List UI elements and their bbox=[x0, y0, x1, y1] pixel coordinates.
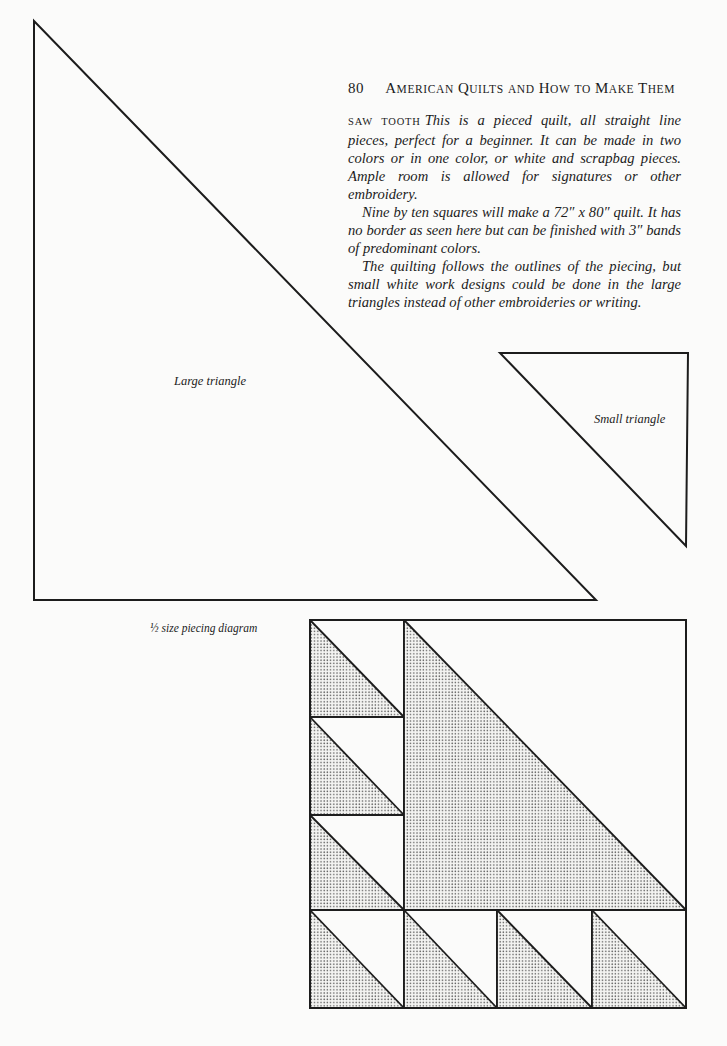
book-title: AMERICAN QUILTS AND HOW TO MAKE THEM bbox=[385, 80, 675, 96]
page-number: 80 bbox=[348, 80, 382, 97]
sawtooth-block bbox=[497, 910, 592, 1008]
sawtooth-block bbox=[310, 717, 404, 815]
large-triangle-block bbox=[404, 620, 686, 910]
sawtooth-block bbox=[310, 620, 404, 717]
large-triangle-label: Large triangle bbox=[174, 374, 246, 389]
small-triangle-template bbox=[500, 353, 688, 546]
pattern-description: saw toothThis is a pieced quilt, all str… bbox=[348, 111, 681, 311]
sawtooth-block bbox=[310, 910, 404, 1008]
piecing-diagram bbox=[310, 620, 686, 1008]
sawtooth-block bbox=[592, 910, 686, 1008]
piecing-diagram-label: ½ size piecing diagram bbox=[150, 622, 257, 634]
small-triangle-label: Small triangle bbox=[594, 412, 665, 427]
paragraph-size: Nine by ten squares will make a 72″ x 80… bbox=[348, 203, 681, 257]
pattern-name: saw tooth bbox=[348, 116, 421, 127]
sawtooth-block bbox=[404, 910, 497, 1008]
paragraph-intro: saw toothThis is a pieced quilt, all str… bbox=[348, 111, 681, 203]
paragraph-quilting: The quilting follows the outlines of the… bbox=[348, 257, 681, 311]
sawtooth-block bbox=[310, 815, 404, 910]
running-header: 80 AMERICAN QUILTS AND HOW TO MAKE THEM bbox=[348, 80, 675, 97]
